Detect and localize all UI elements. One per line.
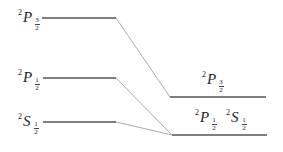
label-term-letter: P xyxy=(207,72,216,87)
label-term-letter: P xyxy=(200,110,209,125)
label-fraction: 1 2 xyxy=(211,117,217,132)
connector-2S1-2 xyxy=(116,122,172,135)
connector-2P3-2 xyxy=(116,18,170,97)
label-fraction: 1 2 xyxy=(33,121,39,136)
label-fraction: 1 2 xyxy=(34,77,40,92)
label-fraction: 3 2 xyxy=(218,79,224,94)
label-term-letter: S xyxy=(231,110,239,125)
label-superscript: 2 xyxy=(18,69,22,77)
label-superscript: 2 xyxy=(195,109,199,117)
label-fraction: 3 2 xyxy=(34,17,40,32)
label-superscript: 2 xyxy=(18,9,22,17)
label-fraction: 1 2 xyxy=(241,117,247,132)
label-superscript: 2 xyxy=(226,109,230,117)
label-superscript: 2 xyxy=(18,113,22,121)
connector-2P1-2 xyxy=(116,78,172,135)
label-term-letter: P xyxy=(23,10,32,25)
label-superscript: 2 xyxy=(202,71,206,79)
label-term-letter: S xyxy=(23,114,31,129)
label-term-letter: P xyxy=(23,70,32,85)
